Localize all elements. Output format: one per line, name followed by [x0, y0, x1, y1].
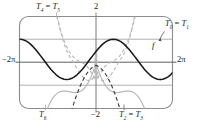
label-y-min-value: −2 — [91, 110, 100, 119]
label-y-max-value: 2 — [94, 2, 98, 11]
label-taylor-t2-t3: T2 = T3 — [119, 110, 143, 119]
label-function-f: f — [152, 41, 155, 50]
label-taylor-t4-t5: T4 = T5 — [36, 2, 60, 11]
label-taylor-t0-t1: T0 = T1 — [165, 19, 189, 28]
label-x-axis-right: 2π — [177, 55, 186, 64]
label-t3-sub: 3 — [140, 115, 143, 121]
label-taylor-t6: T6 — [39, 110, 46, 119]
label-t1-sub: 1 — [186, 24, 189, 30]
label-t5-sub: 5 — [57, 7, 60, 13]
label-t6-sub: 6 — [44, 115, 47, 121]
label-x-axis-left: −2π — [2, 55, 15, 64]
